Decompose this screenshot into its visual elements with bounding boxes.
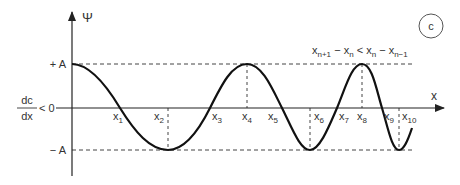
minus-a-label: − A: [50, 144, 67, 156]
y-axis-label: Ψ: [82, 10, 93, 25]
oscillation-diagram: c Ψ x + A − A dc dx < 0 xn+1 − xn < xn −…: [0, 0, 460, 185]
x-axis-label: x: [431, 89, 437, 103]
point-label-x8: x8: [357, 110, 368, 125]
point-label-x10: x10: [402, 110, 417, 125]
gradient-relation: < 0: [39, 102, 55, 114]
point-label-x5: x5: [268, 110, 279, 125]
point-label-x7: x7: [339, 110, 350, 125]
panel-label: c: [428, 20, 434, 32]
wave-curve: [72, 64, 412, 150]
point-label-x3: x3: [212, 110, 223, 125]
gradient-numerator: dc: [21, 94, 33, 106]
plus-a-label: + A: [50, 58, 67, 70]
spacing-condition: xn+1 − xn < xn − xn−1: [312, 44, 408, 59]
point-label-x4: x4: [242, 110, 253, 125]
gradient-denominator: dx: [21, 110, 33, 122]
point-label-x6: x6: [314, 110, 325, 125]
point-label-x2: x2: [154, 110, 165, 125]
